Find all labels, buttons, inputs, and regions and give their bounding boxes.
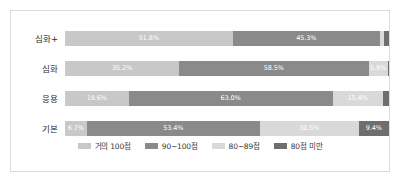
bar-segment: 30.5% <box>260 121 359 136</box>
bar-segment <box>388 61 389 76</box>
legend-item-0[interactable]: 거의 100점 <box>78 140 131 151</box>
segment-value-label: 5.9% <box>370 65 386 72</box>
bar-segment: 19.6% <box>65 91 129 106</box>
bar-segment: 63.0% <box>129 91 333 106</box>
segment-value-label: 63.0% <box>220 95 240 102</box>
bar-row: 응용19.6%63.0%15.4% <box>11 89 389 107</box>
bar-segment <box>384 31 389 46</box>
segment-value-label: 51.8% <box>139 35 159 42</box>
legend-label: 80~89점 <box>229 140 260 151</box>
legend-swatch-icon <box>145 143 158 149</box>
bar-row: 심화+51.8%45.3% <box>11 29 389 47</box>
bar-segment: 6.7% <box>65 121 87 136</box>
bar-segment: 5.9% <box>369 61 388 76</box>
legend-item-1[interactable]: 90~100점 <box>145 140 198 151</box>
segment-value-label: 35.2% <box>112 65 132 72</box>
segment-value-label: 9.4% <box>366 125 382 132</box>
legend-label: 80점 미만 <box>291 140 323 151</box>
legend-swatch-icon <box>274 143 287 149</box>
category-label-0: 심화+ <box>11 32 65 44</box>
legend-item-2[interactable]: 80~89점 <box>212 140 260 151</box>
bar-track: 6.7%53.4%30.5%9.4% <box>65 121 389 136</box>
category-label-2: 응용 <box>11 92 65 104</box>
bar-segment: 15.4% <box>333 91 383 106</box>
category-label-1: 심화 <box>11 62 65 74</box>
bar-segment: 58.5% <box>179 61 369 76</box>
segment-value-label: 45.3% <box>296 35 316 42</box>
bar-segment: 51.8% <box>65 31 233 46</box>
bar-segment: 53.4% <box>87 121 260 136</box>
segment-value-label: 58.5% <box>264 65 284 72</box>
segment-value-label: 6.7% <box>68 125 84 132</box>
bar-row: 심화35.2%58.5%5.9% <box>11 59 389 77</box>
segment-value-label: 30.5% <box>299 125 319 132</box>
chart-legend: 거의 100점90~100점80~89점80점 미만 <box>11 140 389 151</box>
bar-track: 19.6%63.0%15.4% <box>65 91 389 106</box>
chart-frame: 심화+51.8%45.3%심화35.2%58.5%5.9%응용19.6%63.0… <box>10 10 390 172</box>
bar-track: 35.2%58.5%5.9% <box>65 61 389 76</box>
legend-swatch-icon <box>212 143 225 149</box>
segment-value-label: 53.4% <box>163 125 183 132</box>
legend-swatch-icon <box>78 143 91 149</box>
legend-label: 90~100점 <box>162 140 198 151</box>
bar-track: 51.8%45.3% <box>65 31 389 46</box>
bar-segment <box>383 91 389 106</box>
category-label-3: 기본 <box>11 122 65 134</box>
legend-label: 거의 100점 <box>95 140 131 151</box>
bar-segment: 45.3% <box>233 31 380 46</box>
bar-segment: 9.4% <box>359 121 389 136</box>
segment-value-label: 15.4% <box>347 95 367 102</box>
bar-segment: 35.2% <box>65 61 179 76</box>
segment-value-label: 19.6% <box>87 95 107 102</box>
legend-item-3[interactable]: 80점 미만 <box>274 140 323 151</box>
bar-row: 기본6.7%53.4%30.5%9.4% <box>11 119 389 137</box>
